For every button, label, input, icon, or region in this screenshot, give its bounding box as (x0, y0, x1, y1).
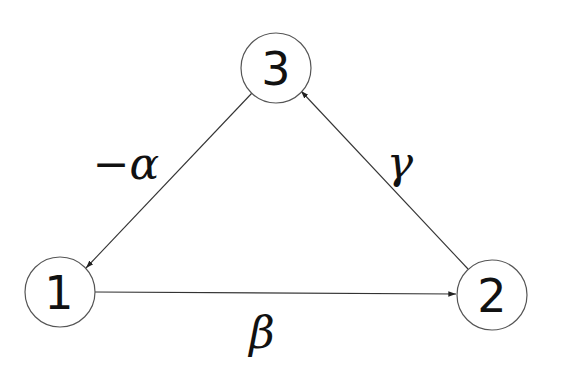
node-3: 3 (241, 33, 311, 103)
edge-label-gamma: γ (387, 137, 414, 188)
node-3-label: 3 (261, 42, 290, 96)
edge-2-to-3 (301, 91, 468, 269)
node-2: 2 (457, 260, 527, 330)
edge-1-to-2 (95, 292, 456, 294)
node-1: 1 (25, 257, 95, 327)
edge-label-beta: β (247, 307, 274, 358)
edge-label-minus-alpha: −α (93, 138, 160, 189)
graph-diagram: −α β γ 1 2 3 (0, 0, 561, 370)
node-1-label: 1 (44, 266, 73, 320)
node-2-label: 2 (477, 269, 506, 323)
